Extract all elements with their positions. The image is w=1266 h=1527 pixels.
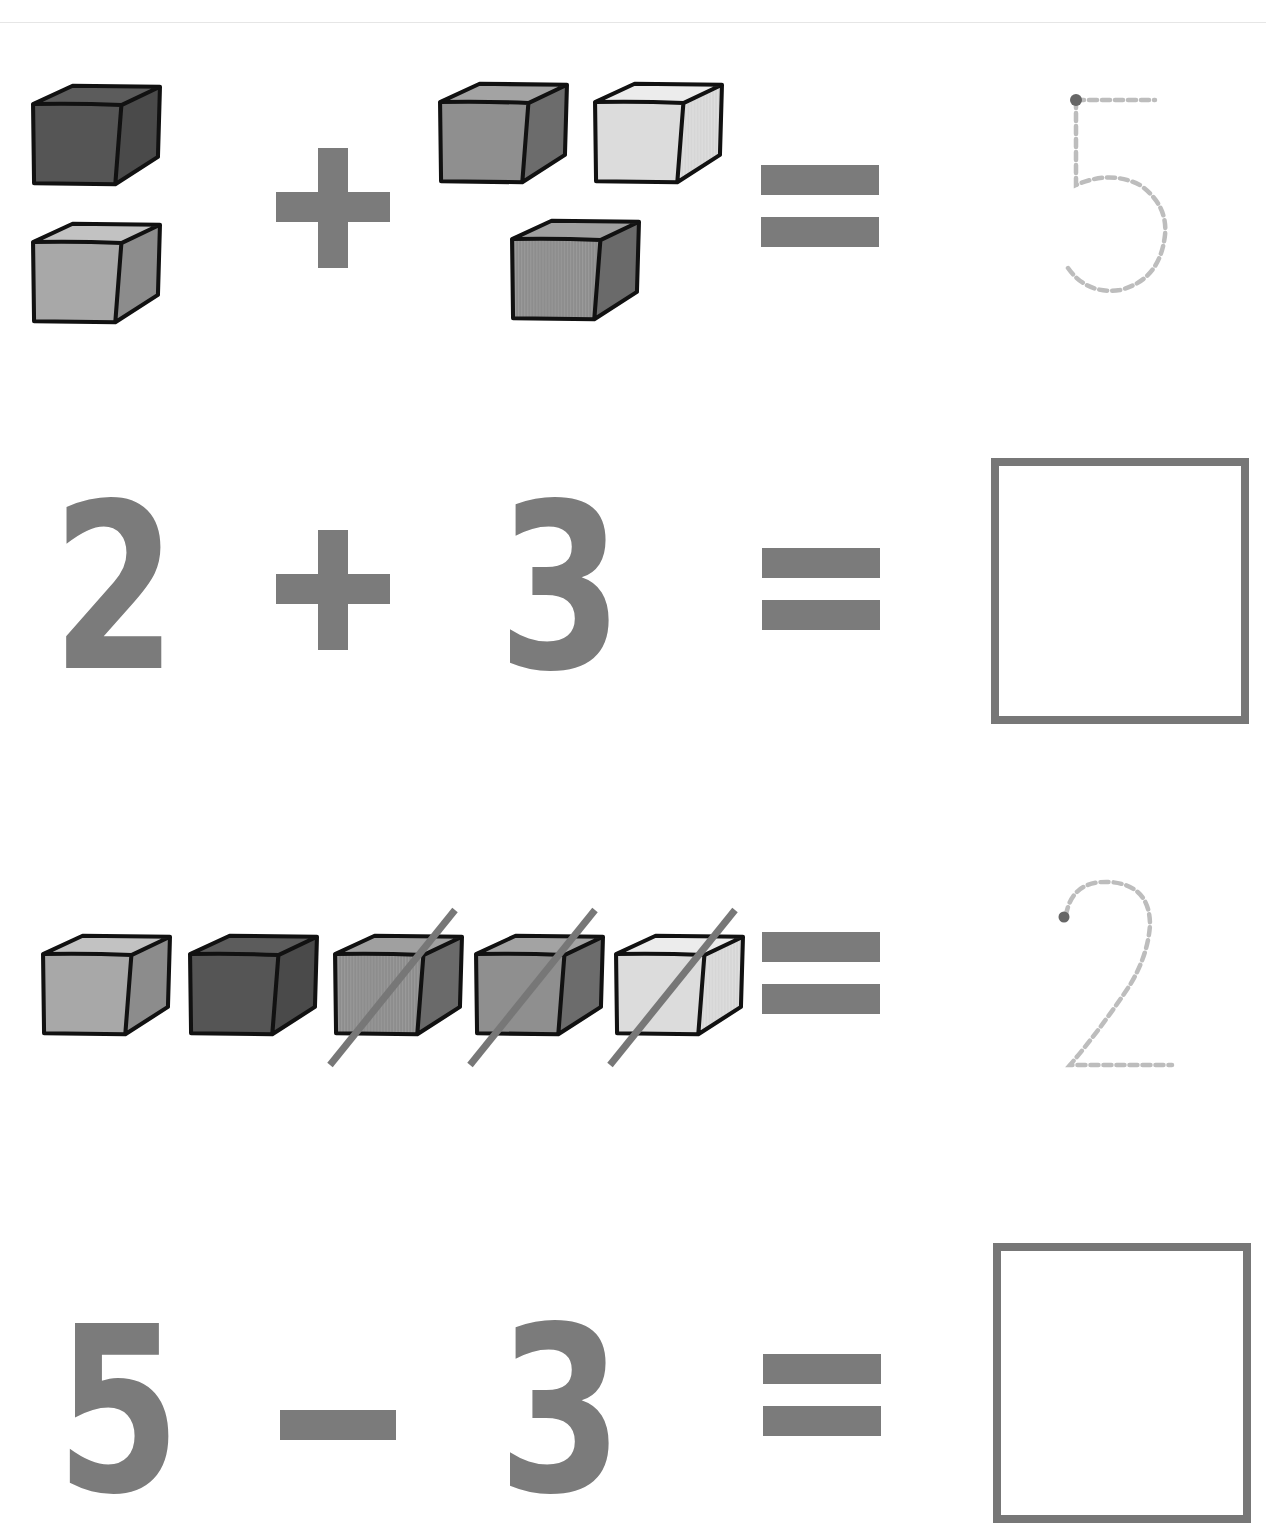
answer-box[interactable] — [993, 1243, 1251, 1523]
operand-1: 5 — [56, 1297, 176, 1527]
operand-2: 3 — [498, 1297, 618, 1527]
minus-sign — [280, 1410, 396, 1440]
trace-digit-two[interactable] — [1050, 870, 1180, 1075]
